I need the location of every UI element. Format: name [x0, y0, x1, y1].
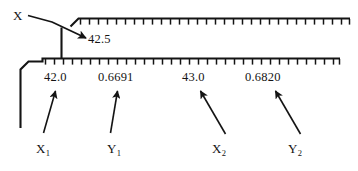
x-pointer-label: X	[13, 9, 22, 22]
variable-label-x2: X2	[212, 142, 226, 155]
variable-subscript: 1	[46, 148, 50, 158]
y2-pointer-arrow	[276, 91, 301, 134]
y1-pointer-arrow	[111, 91, 118, 133]
variable-subscript: 2	[222, 148, 226, 158]
variable-base: Y	[107, 141, 116, 156]
figure-canvas: X 42.5 42.0 0.6691 43.0 0.6820 X1 Y1 X2 …	[0, 0, 358, 171]
value-y2: 0.6820	[245, 71, 281, 84]
variable-label-y1: Y1	[107, 142, 121, 155]
variable-label-y2: Y2	[288, 142, 302, 155]
interpolated-value-callout: 42.5	[88, 33, 111, 46]
upper-scale-ticks	[81, 19, 350, 25]
variable-subscript: 2	[298, 148, 302, 158]
x2-pointer-arrow	[201, 91, 226, 134]
lower-scale-ticks	[46, 59, 340, 65]
value-x2: 43.0	[182, 71, 205, 84]
upper-scale	[71, 19, 351, 27]
value-x1: 42.0	[44, 71, 67, 84]
x1-pointer-arrow	[44, 91, 56, 133]
variable-base: X	[36, 141, 45, 156]
lower-scale	[21, 59, 341, 129]
variable-label-x1: X1	[36, 142, 50, 155]
diagram-linework	[0, 0, 358, 171]
variable-subscript: 1	[117, 148, 121, 158]
variable-base: Y	[288, 141, 297, 156]
variable-base: X	[212, 141, 221, 156]
value-y1: 0.6691	[98, 71, 134, 84]
